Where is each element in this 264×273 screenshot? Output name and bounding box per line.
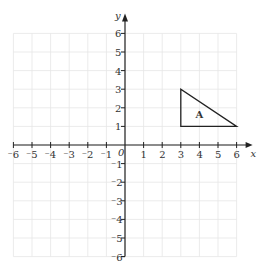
y-tick-label: ⁻1 <box>111 159 123 170</box>
y-tick-label: 2 <box>115 103 121 114</box>
x-tick-label: 1 <box>141 149 147 160</box>
x-tick-label: 3 <box>178 149 184 160</box>
x-tick-label: 2 <box>159 149 165 160</box>
y-tick-label: 1 <box>115 121 121 132</box>
y-tick-label: ⁻6 <box>111 252 123 263</box>
y-tick-label: ⁻5 <box>111 233 123 244</box>
x-tick-label: ⁻5 <box>26 149 38 160</box>
shape-label: A <box>194 109 203 120</box>
x-axis-label: x <box>251 148 257 159</box>
x-tick-label: ⁻2 <box>82 149 94 160</box>
x-tick-label: ⁻4 <box>45 149 57 160</box>
y-axis-label: y <box>114 10 121 21</box>
x-tick-label: ⁻3 <box>63 149 75 160</box>
y-tick-label: 5 <box>115 47 121 58</box>
y-axis-arrow-icon <box>122 13 128 21</box>
y-tick-label: 6 <box>115 28 121 39</box>
y-tick-label: ⁻4 <box>111 214 123 225</box>
y-tick-label: ⁻3 <box>111 196 123 207</box>
x-tick-label: 6 <box>234 149 240 160</box>
y-tick-label: 3 <box>115 84 121 95</box>
y-tick-label: 4 <box>115 66 121 77</box>
x-tick-label: 4 <box>196 149 202 160</box>
coordinate-plane: xy0⁻6⁻5⁻4⁻3⁻2⁻1123456654321⁻1⁻2⁻3⁻4⁻5⁻6A <box>0 0 264 273</box>
y-tick-label: ⁻2 <box>111 177 123 188</box>
x-tick-label: ⁻6 <box>7 149 19 160</box>
x-tick-label: 5 <box>215 149 221 160</box>
origin-label: 0 <box>118 147 125 158</box>
